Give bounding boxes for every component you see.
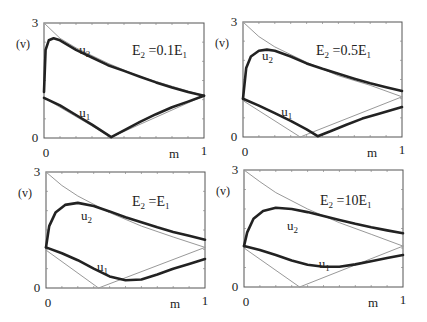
panel-title: E2 =10E1 <box>320 193 372 210</box>
x-tick-label-min: 0 <box>45 295 52 310</box>
curve-label-u1: u1 <box>281 104 292 121</box>
y-tick-label-min: 0 <box>232 279 239 294</box>
chart-panel-1: 3001m(v)u2u1E2 =0.1E1 <box>16 15 207 161</box>
y-axis-label: (v) <box>215 36 229 50</box>
chart-panel-2: 3001m(v)u2u1E2 =0.5E1 <box>215 14 405 160</box>
y-axis-label: (v) <box>16 37 30 51</box>
curve-label-u1: u1 <box>79 105 90 122</box>
plot-frame <box>46 172 205 288</box>
y-tick-label-max: 3 <box>231 14 238 29</box>
x-tick-label-min: 0 <box>243 294 250 309</box>
series-u1 <box>46 247 205 280</box>
series-u1 <box>44 96 204 137</box>
series-reference-upper <box>46 172 205 247</box>
x-tick-label-max: 1 <box>201 143 208 158</box>
curve-label-u1: u1 <box>97 259 108 276</box>
y-axis-label: (v) <box>18 186 32 200</box>
chart-panel-3: 3001m(v)u2u1E2 =E1 <box>18 164 208 311</box>
x-axis-label: m <box>170 296 180 311</box>
y-tick-label-min: 0 <box>32 130 39 145</box>
x-tick-label-max: 1 <box>399 142 406 157</box>
panel-title: E2 =0.1E1 <box>132 43 187 60</box>
series-reference-upper <box>44 23 204 96</box>
series-reference-lower <box>243 97 402 137</box>
x-axis-label: m <box>368 295 378 310</box>
x-tick-label-max: 1 <box>202 293 209 308</box>
chart-panel-4: 3001m(v)u2u1E2 =10E1 <box>216 162 406 310</box>
series-reference-upper <box>244 170 403 246</box>
x-tick-label-min: 0 <box>242 144 249 159</box>
series-u1 <box>243 99 402 137</box>
plot-frame <box>44 23 204 138</box>
curve-label-u2: u2 <box>81 208 92 225</box>
panel-title: E2 =E1 <box>132 194 170 211</box>
y-tick-label-max: 3 <box>34 164 41 179</box>
panel-title: E2 =0.5E1 <box>316 43 371 60</box>
curve-label-u2: u2 <box>287 218 298 235</box>
y-tick-label-max: 3 <box>32 15 39 30</box>
x-tick-label-max: 1 <box>400 292 407 307</box>
series-u2 <box>46 203 205 248</box>
curve-label-u2: u2 <box>79 42 90 59</box>
y-axis-label: (v) <box>216 184 230 198</box>
curve-label-u1: u1 <box>319 256 330 273</box>
x-tick-label-min: 0 <box>43 145 50 160</box>
x-axis-label: m <box>169 146 179 161</box>
y-tick-label-max: 3 <box>232 162 239 177</box>
y-tick-label-min: 0 <box>231 129 238 144</box>
plot-frame <box>243 22 402 137</box>
x-axis-label: m <box>367 145 377 160</box>
figure-grid: 3001m(v)u2u1E2 =0.1E13001m(v)u2u1E2 =0.5… <box>0 0 427 322</box>
series-u2 <box>244 208 403 246</box>
y-tick-label-min: 0 <box>34 280 41 295</box>
